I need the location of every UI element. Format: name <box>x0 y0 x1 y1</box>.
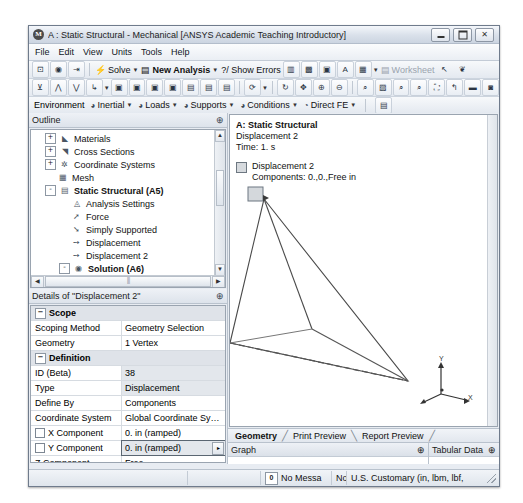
details-value-cell[interactable]: Components <box>122 396 225 410</box>
tree-item-cross-sections[interactable]: +◥Cross Sections <box>31 145 215 158</box>
selection-box-icon[interactable]: ⊡ <box>32 61 49 78</box>
env-item-supports[interactable]: ◕ Supports ▼ <box>184 100 235 110</box>
chevron-down-icon[interactable]: ▼ <box>262 85 268 91</box>
viewport-scrollbar[interactable] <box>487 115 497 426</box>
new-analysis-button[interactable]: ▤ New Analysis ▼ <box>140 65 219 75</box>
tree-item-coordinate-systems[interactable]: +✲Coordinate Systems <box>31 158 215 171</box>
menu-item-edit[interactable]: Edit <box>59 47 75 57</box>
settings-icon[interactable]: ◙ <box>482 79 499 96</box>
named-selection-icon[interactable]: ▥ <box>283 61 300 78</box>
camera-icon[interactable]: ▦ <box>355 61 372 78</box>
extend-select-2-icon[interactable]: ▤ <box>200 79 217 96</box>
show-errors-button[interactable]: ?/ Show Errors <box>220 65 282 75</box>
minimize-button[interactable] <box>431 28 450 42</box>
rotate-view-icon[interactable]: ↻ <box>277 79 294 96</box>
details-group-scope[interactable]: −Scope <box>31 306 225 321</box>
tab-geometry[interactable]: Geometry <box>230 430 282 442</box>
close-button[interactable]: ✕ <box>475 28 494 42</box>
tab-print-preview[interactable]: Print Preview <box>288 430 351 442</box>
worksheet-button[interactable]: ▤ Worksheet <box>380 65 436 75</box>
collapse-icon[interactable]: - <box>45 185 56 196</box>
menu-item-units[interactable]: Units <box>111 47 132 57</box>
details-row-z-component[interactable]: Z ComponentFree <box>31 456 225 463</box>
details-row-y-component[interactable]: Y Component0. in (ramped)▸ <box>31 441 225 456</box>
tree-item-displacement[interactable]: ➙Displacement <box>31 236 215 249</box>
display-icon[interactable]: ▬ <box>464 79 481 96</box>
details-grid[interactable]: −ScopeScoping MethodGeometry SelectionGe… <box>30 305 226 463</box>
scroll-thumb[interactable] <box>216 170 224 206</box>
chevron-down-icon[interactable]: ▼ <box>373 67 379 73</box>
tree-item-solution-a6[interactable]: -◉Solution (A6) <box>31 262 215 275</box>
undo-view-icon[interactable]: ↰ <box>446 79 463 96</box>
details-value-cell[interactable]: 1 Vertex <box>122 336 225 350</box>
details-value-cell[interactable]: Geometry Selection <box>122 321 225 335</box>
chevron-down-icon[interactable]: ▼ <box>229 102 235 108</box>
row-checkbox[interactable] <box>35 428 45 438</box>
pin-icon[interactable]: ⊕ <box>216 291 224 301</box>
solve-button[interactable]: ⚡ Solve ▼ <box>94 65 139 75</box>
menu-item-file[interactable]: File <box>35 47 50 57</box>
env-item-conditions[interactable]: ◕ Conditions ▼ <box>241 100 298 110</box>
pointer-icon[interactable]: ↖ <box>436 61 453 78</box>
env-list-icon[interactable]: ▤ <box>375 97 392 114</box>
tree-item-static-structural-a5[interactable]: -▤Static Structural (A5) <box>31 184 215 197</box>
scroll-thumb-h[interactable] <box>45 276 211 287</box>
resize-grip-icon[interactable] <box>485 472 497 484</box>
chevron-down-icon[interactable]: ▼ <box>212 67 218 73</box>
expand-icon[interactable]: + <box>45 159 56 170</box>
details-group-definition[interactable]: −Definition <box>31 351 225 366</box>
extend-select-1-icon[interactable]: ▤ <box>182 79 199 96</box>
expand-icon[interactable]: + <box>45 133 56 144</box>
scroll-left-icon[interactable]: ◀ <box>31 276 44 288</box>
zoom-out-icon[interactable]: ⌕ <box>410 79 427 96</box>
env-item-direct-fe[interactable]: ◔ Direct FE ▼ <box>304 100 356 110</box>
scroll-right-icon[interactable]: ▶ <box>212 276 225 288</box>
collapse-icon[interactable]: − <box>35 308 46 319</box>
maximize-button[interactable] <box>453 28 472 42</box>
refresh-icon[interactable]: ◉ <box>50 61 67 78</box>
probe-icon[interactable]: ⇥ <box>68 61 85 78</box>
box-zoom-icon[interactable]: ⊖ <box>331 79 348 96</box>
chart-icon[interactable]: ▣ <box>319 61 336 78</box>
pin-icon[interactable]: ⊕ <box>216 115 224 125</box>
details-value-cell[interactable]: Global Coordinate Sy… <box>122 411 225 425</box>
pan-icon[interactable]: ✥ <box>295 79 312 96</box>
status-messages[interactable]: 0 No Messa <box>261 471 332 485</box>
env-item-loads[interactable]: ◕ Loads ▼ <box>138 100 177 110</box>
tabular-data-panel[interactable]: Tabular Data ⊕ <box>429 443 499 464</box>
extend-select-3-icon[interactable]: ▤ <box>218 79 235 96</box>
body-select-1-icon[interactable]: ▣ <box>111 79 128 96</box>
menu-item-help[interactable]: Help <box>171 47 190 57</box>
magnifier-window-icon[interactable]: ▨ <box>375 79 392 96</box>
menu-item-view[interactable]: View <box>83 47 102 57</box>
dropdown-arrow-icon[interactable]: ▸ <box>212 442 224 455</box>
collapse-icon[interactable]: - <box>59 263 70 274</box>
zoom-to-fit-icon[interactable]: ⌕ <box>357 79 374 96</box>
details-value-cell[interactable]: 0. in (ramped) <box>122 426 225 440</box>
tree-item-mesh[interactable]: ▦Mesh <box>31 171 215 184</box>
details-value-cell[interactable]: Free <box>122 456 225 463</box>
details-row-scoping-method[interactable]: Scoping MethodGeometry Selection <box>31 321 225 336</box>
tree-item-materials[interactable]: +◣Materials <box>31 132 215 145</box>
select-vertex-icon[interactable]: ⊻ <box>32 79 49 96</box>
pin-icon[interactable]: ⊕ <box>488 445 496 455</box>
details-row-id-beta[interactable]: ID (Beta)38 <box>31 366 225 381</box>
details-value-cell[interactable]: Displacement <box>122 381 225 395</box>
collapse-icon[interactable]: − <box>35 353 46 364</box>
rotate-icon[interactable]: ⟳ <box>244 79 261 96</box>
outline-horizontal-scrollbar[interactable]: ◀ ▶ <box>31 275 225 287</box>
row-checkbox[interactable] <box>35 443 45 453</box>
scroll-up-icon[interactable]: ▲ <box>215 130 225 142</box>
annotation-a-icon[interactable]: A <box>337 61 354 78</box>
details-row-define-by[interactable]: Define ByComponents <box>31 396 225 411</box>
outline-vertical-scrollbar[interactable]: ▲ ▼ <box>214 130 225 276</box>
expand-icon[interactable]: + <box>45 146 56 157</box>
details-value-cell[interactable]: 0. in (ramped)▸ <box>122 441 225 455</box>
chevron-down-icon[interactable]: ▼ <box>172 102 178 108</box>
details-row-geometry[interactable]: Geometry1 Vertex <box>31 336 225 351</box>
menu-item-tools[interactable]: Tools <box>141 47 162 57</box>
tree-item-analysis-settings[interactable]: ◬Analysis Settings <box>31 197 215 210</box>
tree-item-force[interactable]: ➚Force <box>31 210 215 223</box>
tag-icon[interactable]: ❦ <box>454 61 471 78</box>
cursor-mode-icon[interactable]: ↳ <box>86 79 103 96</box>
